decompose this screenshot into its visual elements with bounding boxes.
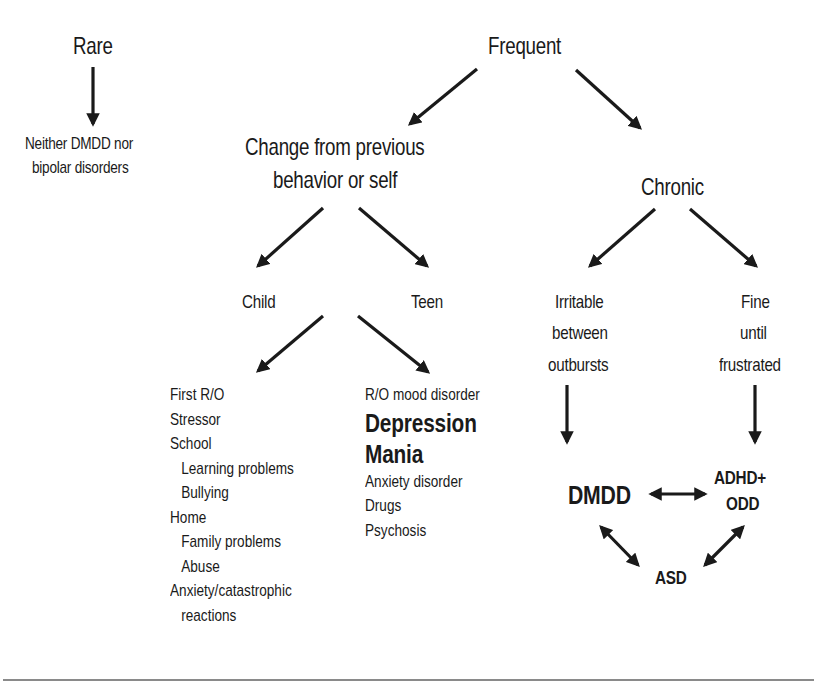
node-irritable-line3: outbursts bbox=[548, 354, 608, 376]
node-asd: ASD bbox=[655, 568, 687, 589]
list-item: Home bbox=[170, 506, 294, 531]
arrow-teen-to-list bbox=[358, 316, 428, 372]
node-rare-outcome-line2: bipolar disorders bbox=[32, 156, 128, 180]
arrow-frequent-to-chronic bbox=[576, 70, 640, 128]
list-item: Psychosis bbox=[365, 519, 480, 544]
list-item-emphasis: Mania bbox=[365, 439, 480, 470]
node-teen: Teen bbox=[411, 291, 443, 313]
node-child: Child bbox=[242, 291, 275, 313]
node-chronic: Chronic bbox=[641, 173, 704, 201]
node-change-line2: behavior or self bbox=[273, 166, 397, 194]
arrow-dmdd-asd-bidirectional bbox=[601, 527, 638, 565]
bottom-divider bbox=[3, 679, 814, 681]
arrow-change-to-child bbox=[258, 208, 323, 266]
list-item: Abuse bbox=[170, 555, 294, 580]
node-change-line1: Change from previous bbox=[245, 133, 424, 161]
node-rare-outcome-line1: Neither DMDD nor bbox=[25, 132, 133, 156]
node-fine-line2: until bbox=[740, 322, 767, 344]
list-item: Family problems bbox=[170, 530, 294, 555]
list-item: School bbox=[170, 432, 294, 457]
node-adhd-line2: ODD bbox=[726, 494, 759, 515]
node-dmdd: DMDD bbox=[568, 481, 631, 510]
arrow-chronic-to-irritable bbox=[590, 209, 655, 266]
teen-considerations-list: R/O mood disorder Depression Mania Anxie… bbox=[365, 383, 480, 543]
node-rare: Rare bbox=[73, 32, 113, 60]
node-adhd-line1: ADHD+ bbox=[714, 468, 766, 489]
list-item: Learning problems bbox=[170, 457, 294, 482]
list-item: Drugs bbox=[365, 494, 480, 519]
arrow-frequent-to-change bbox=[410, 69, 477, 124]
arrow-change-to-teen bbox=[359, 208, 427, 266]
node-irritable-line1: Irritable bbox=[555, 291, 604, 313]
node-fine-line3: frustrated bbox=[719, 354, 781, 376]
arrow-adhd-asd-bidirectional bbox=[705, 527, 743, 565]
list-item: Anxiety disorder bbox=[365, 470, 480, 495]
list-item: Anxiety/catastrophic bbox=[170, 579, 294, 604]
list-item: R/O mood disorder bbox=[365, 383, 480, 408]
list-item: Stressor bbox=[170, 408, 294, 433]
flowchart: Rare Neither DMDD nor bipolar disorders … bbox=[0, 0, 820, 687]
list-item: First R/O bbox=[170, 383, 294, 408]
node-frequent: Frequent bbox=[488, 32, 561, 60]
arrow-layer bbox=[0, 0, 820, 687]
node-fine-line1: Fine bbox=[741, 291, 770, 313]
arrow-child-to-list bbox=[258, 316, 323, 371]
child-considerations-list: First R/O Stressor School Learning probl… bbox=[170, 383, 294, 628]
list-item-emphasis: Depression bbox=[365, 408, 480, 439]
arrow-chronic-to-fine bbox=[690, 209, 756, 266]
node-irritable-line2: between bbox=[552, 322, 608, 344]
list-item: Bullying bbox=[170, 481, 294, 506]
list-item: reactions bbox=[170, 604, 294, 629]
